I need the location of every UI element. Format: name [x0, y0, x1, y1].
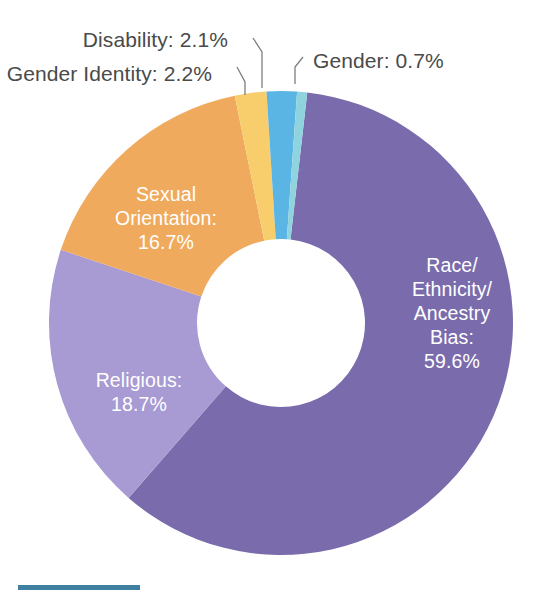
slice-label-sexual-orientation-line2: Orientation: — [115, 207, 217, 229]
slice-label-race-line1: Race/ — [426, 254, 478, 276]
slice-label-religious-value: 18.7% — [111, 393, 167, 415]
slice-label-race-line4: Bias: — [430, 326, 474, 348]
callout-label-gender: Gender: 0.7% — [313, 49, 444, 72]
slice-label-sexual-orientation-line1: Sexual — [136, 183, 196, 205]
slice-label-race-line3: Ancestry — [414, 302, 491, 324]
slice-label-race-line2: Ethnicity/ — [412, 278, 493, 300]
footer-divider-rule — [18, 585, 140, 590]
slice-label-religious-line1: Religious: — [96, 369, 183, 391]
slice-label-race-value: 59.6% — [424, 350, 480, 372]
callout-label-gender-identity: Gender Identity: 2.2% — [7, 62, 212, 85]
slice-label-sexual-orientation-value: 16.7% — [138, 231, 194, 253]
callout-label-disability: Disability: 2.1% — [83, 28, 228, 51]
donut-chart-svg: Disability: 2.1% Gender Identity: 2.2% G… — [0, 0, 542, 593]
donut-chart: Disability: 2.1% Gender Identity: 2.2% G… — [0, 0, 542, 593]
